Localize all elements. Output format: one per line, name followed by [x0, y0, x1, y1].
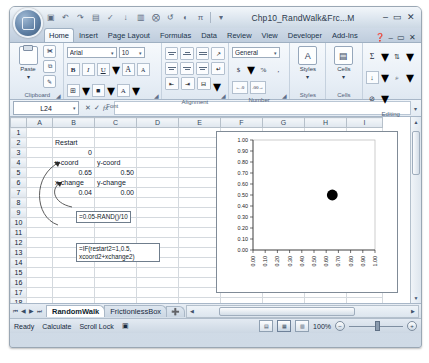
cell-E15[interactable]: [179, 268, 221, 278]
row-header-15[interactable]: 15: [11, 268, 27, 278]
column-header-E[interactable]: E: [179, 118, 221, 128]
grow-font-button[interactable]: A: [122, 63, 135, 76]
cell-B5[interactable]: 0.65: [53, 168, 95, 178]
cell-A6[interactable]: [27, 178, 53, 188]
cell-E17[interactable]: [179, 288, 221, 298]
cell-A8[interactable]: [27, 198, 53, 208]
row-header-13[interactable]: 13: [11, 248, 27, 258]
cell-C3[interactable]: [95, 148, 137, 158]
cell-B16[interactable]: [53, 278, 95, 288]
scroll-down-button[interactable]: ▼: [411, 293, 421, 303]
cell-A18[interactable]: [27, 298, 53, 305]
fill-icon[interactable]: ↓: [366, 71, 379, 84]
row-header-9[interactable]: 9: [11, 208, 27, 218]
cell-B1[interactable]: [53, 128, 95, 138]
redo-icon[interactable]: ↷: [74, 11, 87, 24]
scroll-left-button[interactable]: ◀: [187, 306, 197, 317]
cells-button[interactable]: ▤ Cells ▾: [331, 45, 357, 80]
zoom-in-button[interactable]: +: [407, 321, 417, 331]
cell-B17[interactable]: [53, 288, 95, 298]
cell-I18[interactable]: [347, 298, 383, 305]
cell-H18[interactable]: [305, 298, 347, 305]
decrease-indent-icon[interactable]: ⇤: [165, 77, 179, 90]
cell-A15[interactable]: [27, 268, 53, 278]
cell-D10[interactable]: [137, 218, 179, 228]
view-page-layout-button[interactable]: ▦: [277, 320, 291, 332]
column-header-I[interactable]: I: [347, 118, 383, 128]
restore-button[interactable]: ▭: [393, 13, 402, 22]
decrease-decimal-icon[interactable]: .00→: [250, 81, 266, 94]
fill-color-icon[interactable]: ■: [92, 84, 105, 97]
row-header-3[interactable]: 3: [11, 148, 27, 158]
number-format-combo[interactable]: General ▾: [232, 47, 280, 58]
cell-C17[interactable]: [95, 288, 137, 298]
row-header-12[interactable]: 12: [11, 238, 27, 248]
tab-developer[interactable]: Developer: [283, 28, 327, 42]
tab-page-layout[interactable]: Page Layout: [103, 28, 155, 42]
font-color-caret-icon[interactable]: ▾: [132, 81, 140, 100]
insert-icon[interactable]: ⨂: [149, 11, 162, 24]
row-header-2[interactable]: 2: [11, 138, 27, 148]
cell-E14[interactable]: [179, 258, 221, 268]
tab-review[interactable]: Review: [222, 28, 257, 42]
increase-indent-icon[interactable]: ⇥: [181, 77, 195, 90]
merge-cells-icon[interactable]: ⊟: [197, 77, 211, 90]
cell-B3[interactable]: 0: [53, 148, 95, 158]
chart-icon[interactable]: ▥: [134, 11, 147, 24]
clear-caret-icon[interactable]: ▾: [381, 89, 389, 108]
zoom-slider-knob[interactable]: [375, 321, 380, 331]
paste-button[interactable]: Paste ▾: [15, 45, 41, 80]
row-header-5[interactable]: 5: [11, 168, 27, 178]
find-select-icon[interactable]: ⌕: [391, 71, 404, 84]
tab-add-ins[interactable]: Add-Ins: [327, 28, 363, 42]
restore-workbook-button[interactable]: ▭: [397, 33, 405, 42]
cell-E5[interactable]: [179, 168, 221, 178]
cell-E9[interactable]: [179, 208, 221, 218]
cell-A2[interactable]: [27, 138, 53, 148]
cell-E7[interactable]: [179, 188, 221, 198]
tab-insert[interactable]: Insert: [74, 28, 103, 42]
cell-D7[interactable]: [137, 188, 179, 198]
cells-caret-icon[interactable]: ▾: [342, 73, 345, 80]
cell-C1[interactable]: [95, 128, 137, 138]
italic-button[interactable]: I: [82, 63, 95, 76]
bold-button[interactable]: B: [67, 63, 80, 76]
row-header-1[interactable]: 1: [11, 128, 27, 138]
zoom-slider[interactable]: [349, 321, 403, 331]
cell-B15[interactable]: [53, 268, 95, 278]
minimize-button[interactable]: –: [383, 13, 388, 22]
font-size-combo[interactable]: 10 ▾: [119, 47, 145, 58]
name-box[interactable]: L24 ▾: [13, 101, 79, 115]
cell-E6[interactable]: [179, 178, 221, 188]
cell-D16[interactable]: [137, 278, 179, 288]
cell-F18[interactable]: [221, 298, 263, 305]
view-normal-button[interactable]: ▤: [259, 320, 273, 332]
currency-icon[interactable]: $: [232, 63, 245, 76]
save-icon[interactable]: ▣: [44, 11, 57, 24]
horizontal-scroll-thumb[interactable]: [219, 307, 355, 316]
find-select-caret-icon[interactable]: ▾: [406, 68, 414, 87]
percent-icon[interactable]: %: [257, 63, 270, 76]
pi-icon[interactable]: π: [194, 11, 207, 24]
row-header-4[interactable]: 4: [11, 158, 27, 168]
align-right-button[interactable]: [196, 62, 210, 75]
undo-icon[interactable]: ↶: [59, 11, 72, 24]
cell-E4[interactable]: [179, 158, 221, 168]
new-sheet-icon[interactable]: ➕: [166, 306, 185, 317]
row-header-10[interactable]: 10: [11, 218, 27, 228]
sheet-tab-randomwalk[interactable]: RandomWalk: [46, 305, 105, 317]
row-header-18[interactable]: 18: [11, 298, 27, 305]
tab-data[interactable]: Data: [196, 28, 222, 42]
align-left-button[interactable]: [165, 62, 179, 75]
cell-D8[interactable]: [137, 198, 179, 208]
autosum-caret-icon[interactable]: ▾: [381, 47, 389, 66]
cell-C5[interactable]: 0.50: [95, 168, 137, 178]
select-all-corner[interactable]: [11, 118, 27, 128]
autosum-icon[interactable]: Σ: [366, 50, 379, 63]
cell-D5[interactable]: [137, 168, 179, 178]
column-header-G[interactable]: G: [263, 118, 305, 128]
cell-D9[interactable]: [137, 208, 179, 218]
styles-button[interactable]: A Styles ▾: [295, 45, 321, 80]
macro-record-icon[interactable]: ▣: [122, 322, 129, 330]
tab-view[interactable]: View: [257, 28, 283, 42]
